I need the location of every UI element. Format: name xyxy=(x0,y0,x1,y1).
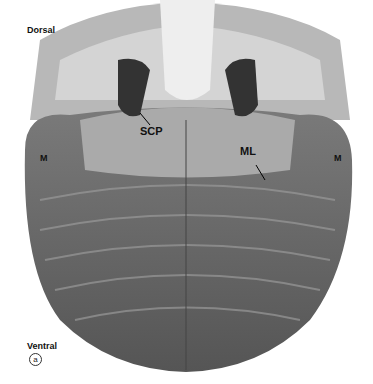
pons-section-image xyxy=(0,0,373,384)
m-right-label: M xyxy=(334,153,342,163)
ml-label: ML xyxy=(240,145,256,157)
ventral-label: Ventral xyxy=(27,341,57,351)
panel-letter: a xyxy=(29,353,42,366)
m-left-label: M xyxy=(40,153,48,163)
scp-label: SCP xyxy=(140,125,163,137)
dorsal-label: Dorsal xyxy=(27,25,55,35)
